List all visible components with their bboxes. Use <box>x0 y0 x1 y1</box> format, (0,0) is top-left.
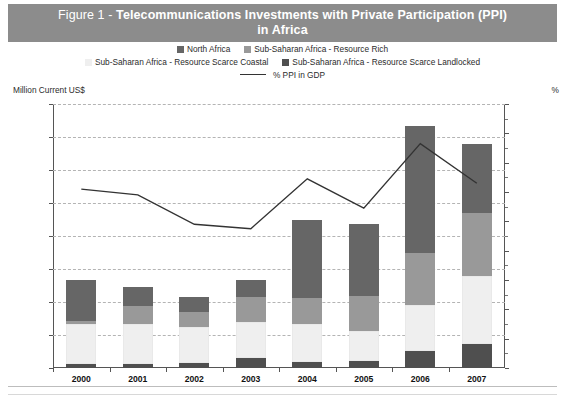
left-axis-caption: Million Current US$ <box>13 85 85 95</box>
legend-row-2: Sub-Saharan Africa - Resource Scarce Coa… <box>0 57 565 67</box>
figure-title-banner: Figure 1 - Telecommunications Investment… <box>8 4 557 42</box>
right-axis-minor-tickmark <box>505 265 508 266</box>
x-axis-tick-label: 2002 <box>166 374 223 384</box>
plot-area: 1600014000120001000080006000400020000 1.… <box>53 104 505 368</box>
right-axis-minor-tickmark <box>505 119 508 120</box>
legend-item-north-africa: North Africa <box>177 44 230 54</box>
legend-row-1: North Africa Sub-Saharan Africa - Resour… <box>0 44 565 54</box>
legend-swatch-icon <box>85 59 92 66</box>
right-axis-tickmark <box>505 133 509 134</box>
x-axis-tickmark <box>336 368 337 372</box>
legend-item-resource-scarce-landlocked: Sub-Saharan Africa - Resource Scarce Lan… <box>282 57 480 67</box>
right-axis-tickmark <box>505 104 509 105</box>
right-axis-tickmark <box>505 251 509 252</box>
x-axis-tick-label: 2004 <box>279 374 336 384</box>
legend-swatch-icon <box>244 46 251 53</box>
right-axis-minor-tickmark <box>505 236 508 237</box>
right-axis-minor-tickmark <box>505 177 508 178</box>
legend-swatch-icon <box>282 59 289 66</box>
legend-label: % PPI in GDP <box>273 70 325 80</box>
footer-rule-bottom <box>8 394 557 395</box>
x-axis-tick-label: 2007 <box>449 374 506 384</box>
x-axis-tick-label: 2003 <box>223 374 280 384</box>
right-axis-tickmark <box>505 368 509 369</box>
legend-label: Sub-Saharan Africa - Resource Scarce Coa… <box>95 57 268 67</box>
right-axis-minor-tickmark <box>505 295 508 296</box>
right-axis-minor-tickmark <box>505 207 508 208</box>
x-axis-tick-label: 2006 <box>392 374 449 384</box>
legend-item-ppi-in-gdp: % PPI in GDP <box>240 70 325 80</box>
x-axis-tickmark <box>279 368 280 372</box>
ppi-line-path <box>81 144 477 229</box>
chart-legend: North Africa Sub-Saharan Africa - Resour… <box>0 44 565 83</box>
legend-line-icon <box>240 74 266 75</box>
right-axis-minor-tickmark <box>505 324 508 325</box>
x-axis-tickmark <box>449 368 450 372</box>
right-axis-caption: % <box>552 85 559 95</box>
x-axis-tick-label: 2001 <box>110 374 167 384</box>
right-axis-tickmark <box>505 280 509 281</box>
legend-label: Sub-Saharan Africa - Resource Rich <box>254 44 388 54</box>
x-axis-tickmark <box>223 368 224 372</box>
right-axis-tickmark <box>505 309 509 310</box>
legend-label: Sub-Saharan Africa - Resource Scarce Lan… <box>292 57 480 67</box>
x-axis-tickmark <box>53 368 54 372</box>
x-axis-tick-label: 2000 <box>53 374 110 384</box>
x-axis-tick-label: 2005 <box>336 374 393 384</box>
right-axis-minor-tickmark <box>505 353 508 354</box>
figure-title-line1: Telecommunications Investments with Priv… <box>116 8 507 22</box>
ppi-line-series <box>53 104 505 368</box>
right-axis-tickmark <box>505 221 509 222</box>
x-axis-tickmark <box>166 368 167 372</box>
right-axis-tickmark <box>505 163 509 164</box>
legend-item-resource-scarce-coastal: Sub-Saharan Africa - Resource Scarce Coa… <box>85 57 268 67</box>
legend-row-3: % PPI in GDP <box>0 70 565 80</box>
right-axis-tickmark <box>505 192 509 193</box>
figure-number: Figure 1 - <box>58 8 116 22</box>
x-axis-tickmark <box>110 368 111 372</box>
figure-title-line2: in Africa <box>257 23 307 37</box>
right-axis-minor-tickmark <box>505 148 508 149</box>
legend-label: North Africa <box>187 44 230 54</box>
x-axis-tickmark <box>392 368 393 372</box>
legend-swatch-icon <box>177 46 184 53</box>
footer-rule-top <box>8 386 557 387</box>
right-axis-tickmark <box>505 339 509 340</box>
legend-item-resource-rich: Sub-Saharan Africa - Resource Rich <box>244 44 388 54</box>
